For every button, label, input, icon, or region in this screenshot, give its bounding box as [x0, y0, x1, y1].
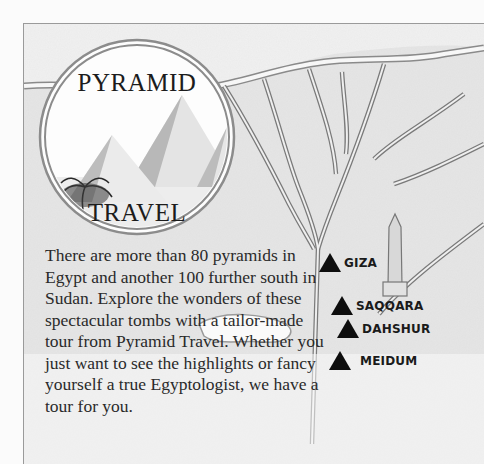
site-label: GIZA [344, 256, 377, 270]
site-label: MEIDUM [360, 354, 417, 368]
map-site-saqqara: SAQQARA [331, 296, 424, 315]
pyramid-marker-icon [331, 296, 353, 315]
map-site-giza: GIZA [319, 253, 377, 272]
map-site-meidum: MEIDUM [329, 351, 417, 370]
pyramid-marker-icon [329, 351, 351, 370]
site-label: SAQQARA [356, 299, 424, 313]
logo-title-bottom: TRAVEL [37, 199, 237, 227]
intro-paragraph: There are more than 80 pyramids in Egypt… [45, 245, 325, 417]
site-label: DAHSHUR [362, 322, 430, 336]
map-site-dahshur: DAHSHUR [337, 319, 430, 338]
logo-title-top: PYRAMID [37, 69, 237, 97]
pyramid-marker-icon [337, 319, 359, 338]
brochure-panel: PYRAMID TRAVEL There are more than 80 py… [23, 23, 484, 464]
pyramid-marker-icon [319, 253, 341, 272]
